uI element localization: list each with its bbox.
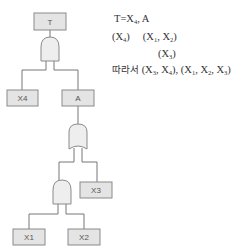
event-label-x2: X2	[79, 233, 89, 242]
expr-text: )	[227, 64, 231, 75]
connector-line	[59, 148, 74, 180]
connector-line	[29, 204, 58, 229]
event-box-x3: X3	[80, 182, 112, 198]
expr-text: (X	[158, 48, 169, 59]
and-gate-icon	[53, 180, 71, 204]
equation-line-1: T=X4, A	[114, 13, 149, 25]
and-gate-icon	[41, 37, 59, 61]
event-box-x4: X4	[7, 90, 38, 106]
expr-text: )	[173, 31, 177, 42]
expr-text: , X	[195, 64, 208, 75]
expr-text: , A	[137, 13, 149, 24]
event-box-a: A	[62, 90, 94, 106]
expr-text: X	[126, 13, 134, 24]
event-label-a: A	[75, 94, 81, 103]
event-box-x2: X2	[68, 229, 100, 245]
expr-text: (X	[112, 31, 123, 42]
expr-text: , X	[156, 64, 169, 75]
top-event-box: T	[34, 13, 66, 30]
equation-line-2: (X4)(X1, X2)	[112, 31, 177, 43]
expr-text: )	[126, 31, 130, 42]
equation-line-3: (X3)	[158, 48, 176, 60]
top-event-label: T	[48, 18, 53, 27]
expr-text: , X	[157, 31, 170, 42]
connector-line	[22, 61, 46, 90]
event-label-x1: X1	[24, 233, 34, 242]
conclusion-prefix: 따라서	[112, 64, 139, 75]
expr-text: (X	[142, 64, 153, 75]
or-gate-icon	[69, 124, 87, 149]
equation-line-4: 따라서 (X3, X4), (X1, X2, X3)	[112, 64, 231, 76]
expr-text: )	[172, 48, 176, 59]
expr-text: ),	[172, 64, 178, 75]
connector-line	[54, 61, 78, 90]
event-label-x3: X3	[91, 186, 101, 195]
connector-line	[82, 148, 97, 182]
event-label-x4: X4	[18, 94, 28, 103]
expr-text: (X	[143, 31, 154, 42]
event-box-x1: X1	[13, 229, 45, 245]
connector-line	[66, 204, 84, 229]
expr-text: (X	[181, 64, 192, 75]
expr-text: , X	[211, 64, 224, 75]
